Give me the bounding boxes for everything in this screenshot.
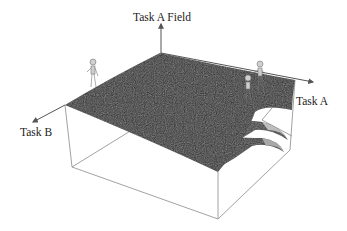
surface-diagram xyxy=(0,0,347,231)
axis-label-task-a: Task A xyxy=(296,96,328,108)
axis-label-task-a-field: Task A Field xyxy=(133,12,191,24)
person-icon xyxy=(87,59,98,87)
axis-label-task-b: Task B xyxy=(20,127,52,139)
axis-task-b xyxy=(33,105,65,122)
